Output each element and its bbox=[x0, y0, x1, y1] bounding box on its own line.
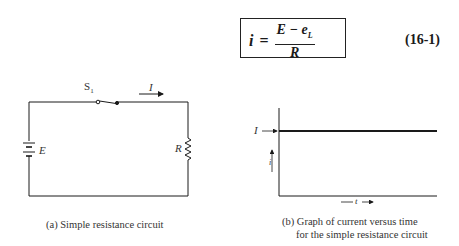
battery-icon bbox=[23, 143, 35, 160]
caption-b-line1: (b) Graph of current versus time bbox=[282, 216, 418, 227]
caption-a: (a) Simple resistance circuit bbox=[46, 219, 164, 230]
switch-label-subscript: 1 bbox=[90, 87, 94, 95]
current-time-graph bbox=[262, 108, 437, 202]
switch-label: S1 bbox=[84, 80, 94, 95]
resistor-label: R bbox=[175, 142, 182, 154]
current-label: I bbox=[149, 81, 153, 93]
graph-level-label: I bbox=[254, 124, 258, 136]
figure-drawing bbox=[0, 0, 459, 246]
caption-b-line2: for the simple resistance circuit bbox=[296, 229, 428, 240]
source-label: E bbox=[39, 144, 46, 156]
circuit-wire bbox=[29, 102, 188, 196]
resistor-icon bbox=[185, 138, 191, 160]
y-axis-label: i bbox=[269, 158, 271, 167]
switch-icon bbox=[96, 100, 118, 104]
x-axis-label: t bbox=[355, 196, 358, 206]
graph-axes bbox=[279, 108, 437, 196]
circuit-diagram bbox=[23, 94, 191, 196]
